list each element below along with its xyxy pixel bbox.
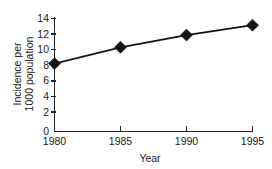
x-tick-label: 1985 (109, 135, 133, 147)
x-axis-tick-labels: 1980 1985 1990 1995 (43, 135, 265, 147)
y-axis-title-line-2: 1000 population (23, 36, 35, 111)
data-point-1985 (115, 41, 127, 53)
x-tick-label: 1990 (175, 135, 199, 147)
y-tick-label: 10 (37, 43, 49, 55)
chart-canvas: 14 12 10 8 6 4 2 0 (0, 0, 272, 169)
y-tick-label: 14 (37, 12, 49, 24)
y-axis-title: Incidence per 1000 population (11, 36, 35, 111)
x-axis-title: Year (139, 152, 161, 164)
series-line-incidence (55, 25, 253, 63)
y-axis-title-line-1: Incidence per (11, 42, 23, 106)
x-tick-label: 1980 (43, 135, 67, 147)
data-point-1990 (181, 29, 193, 41)
y-tick-label: 8 (43, 59, 49, 71)
y-axis-tick-labels: 14 12 10 8 6 4 2 0 (37, 12, 49, 137)
y-tick-label: 2 (43, 106, 49, 118)
y-tick-label: 12 (37, 28, 49, 40)
y-tick-label: 6 (43, 74, 49, 86)
data-point-1995 (247, 19, 259, 31)
series-markers (49, 19, 259, 69)
x-axis-ticks (55, 126, 253, 132)
y-tick-label: 4 (43, 90, 49, 102)
x-tick-label: 1995 (241, 135, 265, 147)
data-point-1980 (49, 58, 61, 70)
axis-lines (55, 17, 254, 132)
chart-figure: 14 12 10 8 6 4 2 0 (0, 0, 272, 169)
